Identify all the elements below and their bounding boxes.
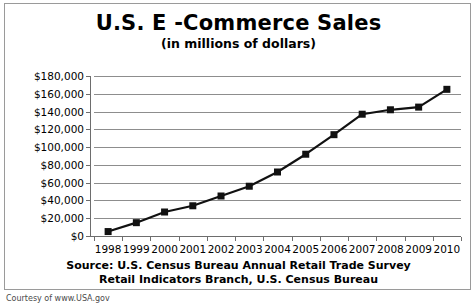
y-axis-tick-label: $160,000: [34, 89, 84, 100]
page-title: U.S. E -Commerce Sales: [5, 11, 472, 35]
data-point-marker: [415, 104, 422, 111]
data-point-marker: [246, 183, 253, 190]
chart-figure: U.S. E -Commerce Sales (in millions of d…: [0, 0, 475, 307]
source-line-1: Source: U.S. Census Bureau Annual Retail…: [5, 259, 472, 273]
y-axis-tick: [86, 147, 90, 148]
credit-line: Courtesy of www.USA.gov: [6, 294, 110, 304]
data-point-marker: [330, 131, 337, 138]
y-axis-line: [90, 76, 91, 237]
x-axis-tick: [122, 237, 123, 241]
data-point-marker: [387, 106, 394, 113]
data-point-marker: [359, 111, 366, 118]
x-axis-tick-label: 2003: [236, 243, 263, 255]
x-axis-tick-label: 2008: [377, 243, 404, 255]
data-point-marker: [161, 209, 168, 216]
x-axis-tick-label: 2004: [264, 243, 291, 255]
y-axis-tick-label: $0: [71, 231, 84, 242]
y-axis-tick-label: $60,000: [41, 178, 84, 189]
y-axis-tick: [86, 76, 90, 77]
x-axis-tick-label: 2009: [405, 243, 432, 255]
data-point-marker: [443, 86, 450, 93]
x-axis-tick-label: 2001: [179, 243, 206, 255]
y-axis-tick: [86, 112, 90, 113]
y-axis-tick: [86, 94, 90, 95]
x-axis-tick-label: 2002: [208, 243, 235, 255]
series-line: [108, 89, 447, 231]
y-axis-tick: [86, 218, 90, 219]
plot-area: [90, 76, 461, 236]
x-axis-tick: [320, 237, 321, 241]
y-axis-tick-label: $120,000: [34, 124, 84, 135]
x-axis-tick: [292, 237, 293, 241]
y-axis-tick-label: $20,000: [41, 213, 84, 224]
y-axis-tick: [86, 200, 90, 201]
plot-inner: [94, 76, 461, 236]
x-axis-tick-label: 2007: [349, 243, 376, 255]
y-axis-tick-label: $140,000: [34, 107, 84, 118]
x-axis-tick: [179, 237, 180, 241]
x-axis-tick: [461, 237, 462, 241]
x-axis-tick: [376, 237, 377, 241]
y-axis-labels: $0$20,000$40,000$60,000$80,000$100,000$1…: [5, 76, 84, 238]
y-axis-tick-label: $40,000: [41, 195, 84, 206]
x-axis-tick: [433, 237, 434, 241]
data-point-marker: [133, 219, 140, 226]
x-axis-tick-label: 1998: [95, 243, 122, 255]
data-point-marker: [218, 193, 225, 200]
chart-title-block: U.S. E -Commerce Sales (in millions of d…: [5, 11, 472, 52]
x-axis-tick: [235, 237, 236, 241]
chart-frame: U.S. E -Commerce Sales (in millions of d…: [4, 3, 471, 290]
x-axis-tick: [348, 237, 349, 241]
x-axis-tick: [207, 237, 208, 241]
chart-subtitle: (in millions of dollars): [5, 36, 472, 52]
data-point-marker: [189, 202, 196, 209]
data-point-marker: [105, 228, 112, 235]
x-axis-tick-label: 2000: [151, 243, 178, 255]
y-axis-tick: [86, 183, 90, 184]
source-note: Source: U.S. Census Bureau Annual Retail…: [5, 259, 472, 287]
x-axis-tick: [94, 237, 95, 241]
x-axis-tick-label: 1999: [123, 243, 150, 255]
x-axis-tick-label: 2010: [434, 243, 461, 255]
y-axis-tick-label: $100,000: [34, 142, 84, 153]
x-axis-tick-label: 2005: [292, 243, 319, 255]
y-axis-tick-label: $80,000: [41, 160, 84, 171]
source-line-2: Retail Indicators Branch, U.S. Census Bu…: [5, 273, 472, 287]
x-axis-tick: [150, 237, 151, 241]
y-axis-tick: [86, 129, 90, 130]
data-point-marker: [302, 151, 309, 158]
y-axis-tick: [86, 165, 90, 166]
data-series-ecommerce-sales: [94, 76, 461, 236]
data-point-marker: [274, 169, 281, 176]
y-axis-tick-label: $180,000: [34, 71, 84, 82]
x-axis-tick: [263, 237, 264, 241]
x-axis-tick-label: 2006: [321, 243, 348, 255]
x-axis-tick: [405, 237, 406, 241]
